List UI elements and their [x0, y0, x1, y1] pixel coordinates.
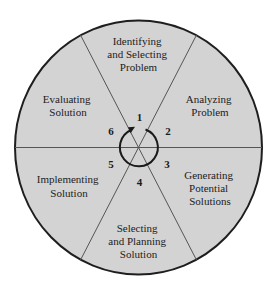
step-2-number: 2: [165, 125, 171, 137]
step-2-label: Analyzing Problem: [186, 93, 235, 118]
step-3-label: Generating Potential Solutions: [184, 169, 236, 207]
step-3-number: 3: [164, 158, 170, 170]
step-6-number: 6: [108, 125, 114, 137]
problem-solving-wheel-diagram: Identifying and Selecting Problem Analyz…: [0, 0, 276, 291]
step-5-number: 5: [108, 158, 114, 170]
step-4-number: 4: [137, 176, 143, 188]
step-1-number: 1: [137, 111, 143, 123]
step-6-label: Evaluating Solution: [43, 93, 93, 118]
